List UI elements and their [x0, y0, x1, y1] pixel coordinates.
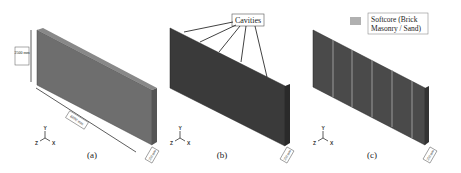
svg-text:Y: Y	[322, 125, 326, 131]
wall-a-side	[152, 88, 157, 145]
wall-c-side	[425, 86, 429, 145]
svg-text:Z: Z	[170, 140, 173, 146]
dim-thickness-label-a: 250 mm	[145, 147, 159, 163]
wall-a-front	[37, 30, 152, 145]
legend-softcore: Softcore (Brick Masonry / Sand)	[350, 13, 428, 34]
wall-b-front	[170, 28, 285, 146]
caption-a: (a)	[87, 150, 97, 160]
caption-c: (c)	[367, 150, 377, 160]
svg-text:Y: Y	[179, 125, 183, 131]
svg-text:X: X	[187, 140, 191, 146]
svg-text:Z: Z	[313, 140, 316, 146]
dim-length-label: 6000 mm	[66, 111, 89, 129]
legend-swatch	[350, 17, 361, 25]
wall-c-front	[313, 30, 425, 145]
dim-height-label: 2500 mm	[14, 47, 30, 65]
panel-a: 2500 mm 6000 mm 250 mm Y Z X (a)	[14, 28, 159, 163]
wall-b-side	[285, 84, 290, 146]
svg-text:Y: Y	[44, 125, 48, 131]
svg-text:Cavities: Cavities	[235, 16, 261, 25]
svg-text:2500 mm: 2500 mm	[14, 50, 30, 55]
panel-b: Cavities 250 mm Y Z X (b)	[170, 14, 294, 163]
svg-text:X: X	[330, 140, 334, 146]
axis-triad-a: Y Z X	[35, 125, 56, 146]
dim-thickness-label-c: 250 mm	[423, 147, 437, 163]
dim-thickness-label-b: 250 mm	[280, 147, 294, 163]
figure-canvas: 2500 mm 6000 mm 250 mm Y Z X (a) Cavitie…	[0, 0, 461, 173]
panel-c: Softcore (Brick Masonry / Sand) 250 mm Y…	[313, 13, 437, 163]
svg-text:Softcore (Brick: Softcore (Brick	[371, 15, 418, 24]
svg-text:Z: Z	[35, 140, 38, 146]
svg-text:Masonry / Sand): Masonry / Sand)	[371, 24, 421, 33]
axis-triad-c: Y Z X	[313, 125, 334, 146]
caption-b: (b)	[217, 150, 228, 160]
axis-triad-b: Y Z X	[170, 125, 191, 146]
svg-text:X: X	[52, 140, 56, 146]
